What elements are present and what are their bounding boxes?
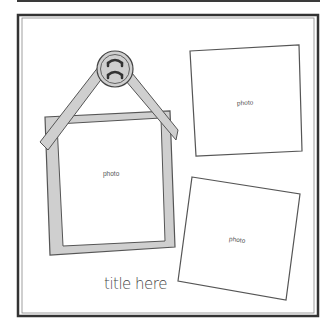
title-label: title here (104, 275, 167, 293)
scrapbook-layout: photo photo photo title here (0, 0, 333, 332)
photo-1-frame (45, 111, 175, 255)
button-icon (97, 51, 133, 87)
photo-1-label: photo (103, 170, 120, 178)
